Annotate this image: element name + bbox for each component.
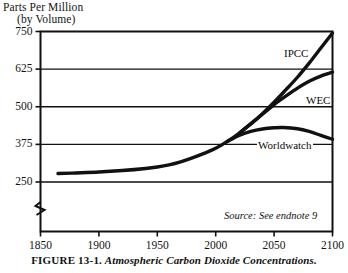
- y-tick-label-250: 250: [0, 175, 33, 187]
- y-tick-label-375: 375: [0, 137, 33, 149]
- x-tick-label-1950: 1950: [132, 239, 182, 251]
- chart-plot-area: [0, 0, 348, 273]
- figure-caption: FIGURE 13-1. Atmospheric Carbon Dioxide …: [0, 254, 348, 266]
- figure-root: Parts Per Million (by Volume) 2503755006…: [0, 0, 348, 273]
- x-tick-label-2000: 2000: [191, 239, 241, 251]
- source-note: Source: See endnote 9: [222, 210, 319, 221]
- caption-figure-number: FIGURE 13-1.: [31, 254, 102, 266]
- x-tick-label-1900: 1900: [74, 239, 124, 251]
- series-label-wec: WEC: [305, 94, 331, 106]
- caption-title: Atmospheric Carbon Dioxide Concentration…: [105, 254, 317, 266]
- x-tick-label-2050: 2050: [249, 239, 299, 251]
- series-label-worldwatch: Worldwatch: [257, 139, 313, 151]
- y-tick-label-625: 625: [0, 62, 33, 74]
- x-tick-label-2100: 2100: [308, 239, 348, 251]
- x-tick-label-1850: 1850: [16, 239, 66, 251]
- plot-frame: [41, 32, 333, 232]
- series-label-ipcc: IPCC: [283, 47, 309, 59]
- y-tick-label-500: 500: [0, 100, 33, 112]
- y-tick-label-750: 750: [0, 25, 33, 37]
